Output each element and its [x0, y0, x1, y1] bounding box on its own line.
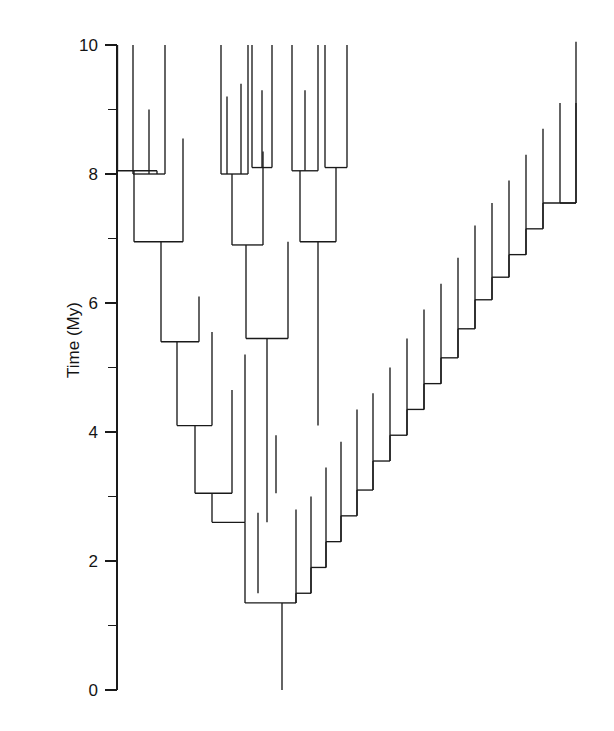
axis-tick-labels: 1086420 [79, 36, 98, 700]
phylogenetic-tree-svg: 1086420 [0, 0, 614, 731]
figure-canvas: Time (My) 1086420 [0, 0, 614, 731]
axis-tick-label: 2 [89, 552, 98, 571]
axis-tick-label: 0 [89, 681, 98, 700]
y-axis [105, 45, 117, 690]
tree-branches [118, 42, 577, 690]
axis-ticks [105, 45, 117, 690]
axis-tick-label: 6 [89, 294, 98, 313]
axis-tick-label: 4 [89, 423, 98, 442]
axis-tick-label: 8 [89, 165, 98, 184]
axis-tick-label: 10 [79, 36, 98, 55]
